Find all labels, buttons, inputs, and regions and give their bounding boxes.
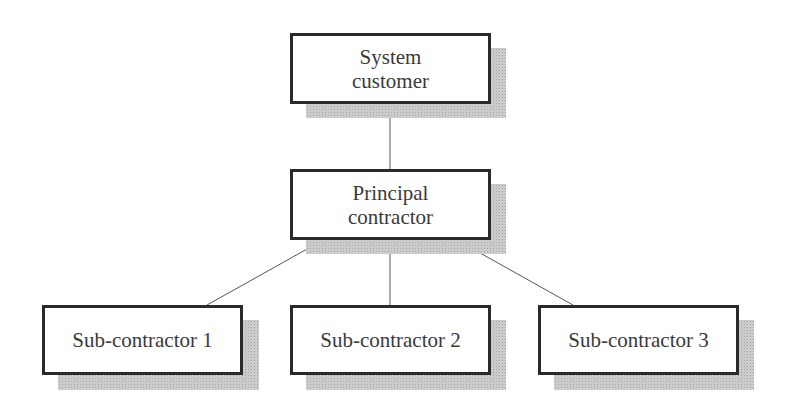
node-label: Sub-contractor 2 xyxy=(320,328,461,352)
node-label: System customer xyxy=(352,45,429,93)
node-sub-contractor-2: Sub-contractor 2 xyxy=(290,305,491,375)
node-principal-contractor: Principal contractor xyxy=(290,169,491,240)
node-system-customer: System customer xyxy=(290,33,491,104)
node-sub-contractor-1: Sub-contractor 1 xyxy=(42,305,243,375)
node-sub-contractor-3: Sub-contractor 3 xyxy=(538,305,739,375)
node-label: Sub-contractor 3 xyxy=(568,328,709,352)
node-label: Sub-contractor 1 xyxy=(72,328,213,352)
node-label: Principal contractor xyxy=(348,181,433,229)
diagram-canvas: System customer Principal contractor Sub… xyxy=(0,0,791,419)
